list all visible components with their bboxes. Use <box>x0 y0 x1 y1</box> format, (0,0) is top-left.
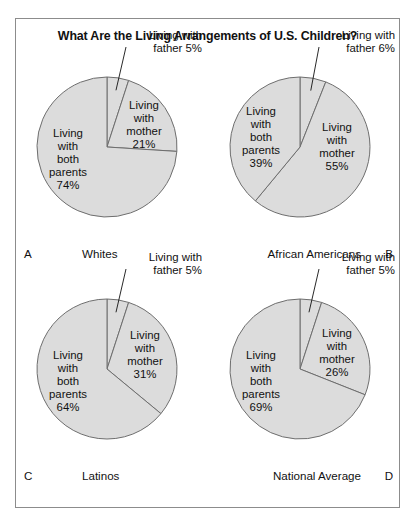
svg-text:Living withfather 5%: Living withfather 5% <box>149 29 202 54</box>
panel-title-latinos: Latinos <box>82 469 119 482</box>
pie-panel-whites: Livingwithbothparents74%Livingwithmother… <box>16 59 208 265</box>
pie-chart-national-average: Livingwithbothparents69%Livingwithmother… <box>209 247 401 471</box>
panel-letter-c: C <box>24 469 32 482</box>
pie-panel-african-americans: Livingwithbothparents39%Livingwithmother… <box>209 59 401 265</box>
figure-frame: What Are the Living Arrangements of U.S.… <box>15 18 400 508</box>
svg-text:Living withfather 5%: Living withfather 5% <box>342 251 395 276</box>
caption-row-national-average: National Average D <box>217 469 393 485</box>
svg-text:Living withfather 6%: Living withfather 6% <box>342 29 395 54</box>
pie-panel-national-average: Livingwithbothparents69%Livingwithmother… <box>209 281 401 487</box>
pie-chart-african-americans: Livingwithbothparents39%Livingwithmother… <box>209 25 401 249</box>
svg-text:Living withfather 5%: Living withfather 5% <box>149 251 202 276</box>
caption-row-latinos: C Latinos <box>24 469 200 485</box>
panel-title-national-average: National Average <box>273 469 361 482</box>
pie-chart-latinos: Livingwithbothparents64%Livingwithmother… <box>16 247 208 471</box>
pie-panel-latinos: Livingwithbothparents64%Livingwithmother… <box>16 281 208 487</box>
pie-chart-whites: Livingwithbothparents74%Livingwithmother… <box>16 25 208 249</box>
panel-letter-d: D <box>385 469 393 482</box>
